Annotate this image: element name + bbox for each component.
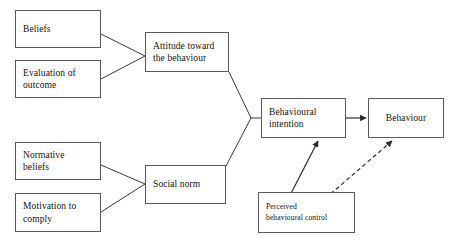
edge-evaluation-to-attitude xyxy=(101,56,145,79)
node-behavioural-intention-label: Behavioural intention xyxy=(269,106,317,131)
edge-motivation-to-social-norm xyxy=(101,184,145,212)
node-evaluation-of-outcome: Evaluation of outcome xyxy=(15,60,101,98)
edge-beliefs-to-attitude xyxy=(101,34,145,56)
node-social-norm: Social norm xyxy=(145,165,226,204)
node-beliefs: Beliefs xyxy=(15,10,101,48)
edge-social-norm-to-intention xyxy=(226,118,251,166)
edge-normative-beliefs-to-social-norm xyxy=(101,165,145,184)
theory-of-planned-behaviour-diagram: Beliefs Evaluation of outcome Normative … xyxy=(0,0,457,244)
node-behaviour: Behaviour xyxy=(368,98,444,138)
node-evaluation-of-outcome-label: Evaluation of outcome xyxy=(23,67,76,92)
node-attitude-toward-the-behaviour: Attitude toward the behaviour xyxy=(145,32,229,72)
node-social-norm-label: Social norm xyxy=(153,178,200,191)
node-beliefs-label: Beliefs xyxy=(23,23,51,36)
node-perceived-behavioural-control-label: Perceived behavioural control xyxy=(266,202,327,223)
node-motivation-to-comply: Motivation to comply xyxy=(15,193,101,232)
node-behaviour-label: Behaviour xyxy=(386,112,426,125)
node-motivation-to-comply-label: Motivation to comply xyxy=(23,200,76,225)
node-attitude-toward-the-behaviour-label: Attitude toward the behaviour xyxy=(153,40,214,65)
node-perceived-behavioural-control: Perceived behavioural control xyxy=(258,192,355,233)
node-normative-beliefs-label: Normative beliefs xyxy=(23,149,65,174)
node-behavioural-intention: Behavioural intention xyxy=(261,98,346,138)
edge-attitude-to-intention xyxy=(229,72,251,118)
node-normative-beliefs: Normative beliefs xyxy=(15,142,101,180)
